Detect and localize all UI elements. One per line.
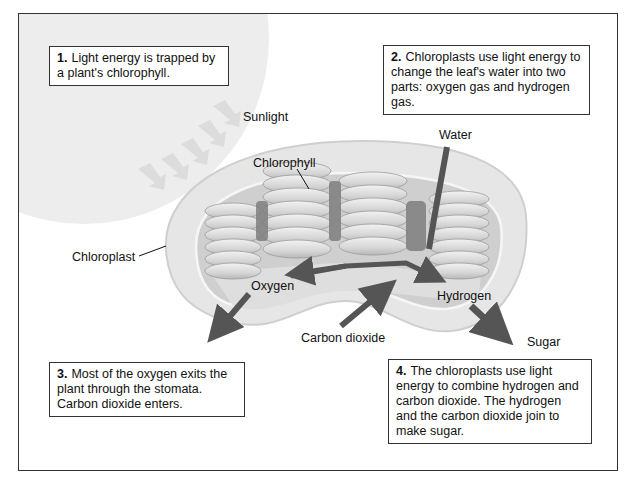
step-1-text: Light energy is trapped by a plant's chl… [57, 51, 215, 80]
label-chlorophyll: Chlorophyll [253, 156, 316, 170]
label-sunlight: Sunlight [243, 110, 288, 124]
step-1-box: 1.Light energy is trapped by a plant's c… [49, 46, 229, 86]
step-4-box: 4.The chloroplasts use light energy to c… [388, 359, 592, 444]
step-3-number: 3. [57, 367, 67, 381]
step-1-number: 1. [57, 51, 67, 65]
label-hydrogen: Hydrogen [437, 289, 491, 303]
step-4-number: 4. [396, 364, 406, 378]
step-3-box: 3.Most of the oxygen exits the plant thr… [49, 362, 245, 417]
label-carbon-dioxide: Carbon dioxide [301, 331, 385, 345]
label-chloroplast: Chloroplast [72, 250, 135, 264]
label-oxygen: Oxygen [251, 279, 294, 293]
step-4-text: The chloroplasts use light energy to com… [396, 364, 579, 438]
diagram-frame: 1.Light energy is trapped by a plant's c… [18, 13, 618, 471]
step-2-text: Chloroplasts use light energy to change … [391, 50, 581, 109]
label-sugar: Sugar [527, 335, 560, 349]
step-2-number: 2. [391, 50, 401, 64]
label-water: Water [439, 128, 472, 142]
step-2-box: 2.Chloroplasts use light energy to chang… [383, 45, 590, 115]
step-3-text: Most of the oxygen exits the plant throu… [57, 367, 227, 411]
